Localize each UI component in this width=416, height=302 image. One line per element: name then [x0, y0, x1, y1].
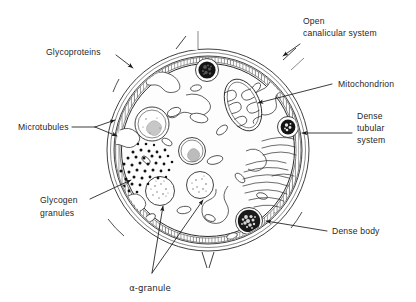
label-microtubules: Microtubules [18, 122, 69, 132]
label-dense-tubular-system-line2: tubular [357, 123, 384, 133]
label-dense-tubular-system-line1: Dense [357, 111, 383, 121]
label-alpha-granule: α-granule [129, 283, 171, 293]
alpha-granule-left [146, 177, 175, 206]
granule-upper-left [135, 107, 169, 141]
label-open-canalicular-system-line1: Open [303, 16, 325, 26]
granule-mid [179, 138, 206, 165]
label-dense-body: Dense body [332, 226, 380, 236]
alpha-granule-right [187, 172, 214, 199]
figure-root: Glycoproteins Open canalicular system Mi… [0, 0, 416, 302]
dense-granule-top [196, 59, 219, 82]
label-glycoproteins: Glycoproteins [46, 47, 101, 57]
label-glycogen-granules-line2: granules [40, 208, 74, 218]
label-dense-tubular-system-line3: system [357, 135, 385, 145]
platelet-diagram: Glycoproteins Open canalicular system Mi… [0, 0, 416, 302]
label-glycogen-granules-line1: Glycogen [40, 195, 78, 205]
label-mitochondrion: Mitochondrion [338, 79, 394, 89]
label-open-canalicular-system-line2: canalicular system [303, 28, 377, 38]
